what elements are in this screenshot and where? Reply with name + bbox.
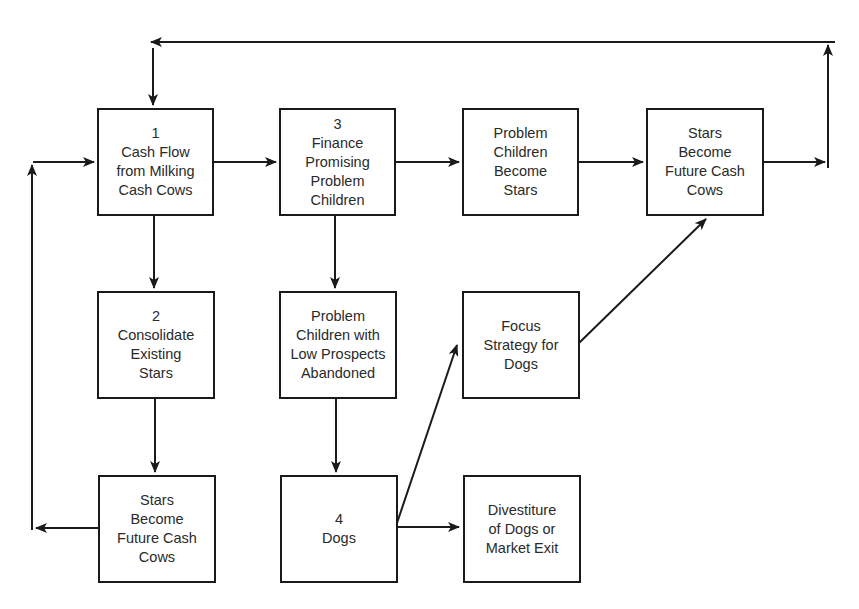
- node-label: Stars Become Future Cash Cows: [117, 491, 197, 567]
- node-consolidate-stars: 2 Consolidate Existing Stars: [97, 291, 215, 399]
- node-problem-children-become-stars: Problem Children Become Stars: [462, 108, 579, 216]
- node-divestiture: Divestiture of Dogs or Market Exit: [463, 475, 581, 583]
- node-low-prospects-abandoned: Problem Children with Low Prospects Aban…: [279, 291, 397, 399]
- node-label: 2 Consolidate Existing Stars: [118, 307, 195, 383]
- node-label: Focus Strategy for Dogs: [484, 317, 559, 374]
- arrow-focus-to-cash-cows: [579, 219, 706, 343]
- node-label: Stars Become Future Cash Cows: [665, 124, 745, 200]
- portfolio-strategy-flowchart: 1 Cash Flow from Milking Cash Cows 3 Fin…: [0, 0, 859, 609]
- node-label: Problem Children with Low Prospects Aban…: [290, 307, 385, 383]
- node-stars-become-cash-cows-bottom: Stars Become Future Cash Cows: [98, 475, 216, 583]
- node-finance-problem-children: 3 Finance Promising Problem Children: [279, 108, 396, 216]
- node-label: 3 Finance Promising Problem Children: [305, 115, 369, 210]
- node-label: Problem Children Become Stars: [494, 124, 548, 200]
- node-cash-flow: 1 Cash Flow from Milking Cash Cows: [97, 108, 214, 216]
- node-dogs: 4 Dogs: [280, 475, 398, 583]
- arrow-dogs-to-focus: [397, 345, 457, 523]
- node-stars-become-cash-cows-top: Stars Become Future Cash Cows: [646, 108, 764, 216]
- node-focus-strategy-dogs: Focus Strategy for Dogs: [462, 291, 580, 399]
- node-label: 4 Dogs: [322, 510, 356, 548]
- node-label: 1 Cash Flow from Milking Cash Cows: [116, 124, 194, 200]
- node-label: Divestiture of Dogs or Market Exit: [486, 501, 559, 558]
